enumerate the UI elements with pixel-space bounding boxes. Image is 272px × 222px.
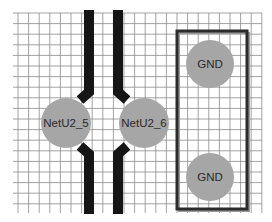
pad-label: GND bbox=[197, 58, 223, 70]
pcb-layout-canvas: NetU2_5NetU2_6GNDGND bbox=[0, 0, 272, 222]
pad-gnd-top[interactable]: GND bbox=[186, 40, 234, 88]
pad-gnd-bottom[interactable]: GND bbox=[186, 153, 234, 201]
pad-label: GND bbox=[197, 171, 223, 183]
pads: NetU2_5NetU2_6GNDGND bbox=[41, 40, 234, 201]
pad-netu2-5[interactable]: NetU2_5 bbox=[41, 98, 91, 148]
pad-label: NetU2_5 bbox=[43, 117, 88, 129]
pad-label: NetU2_6 bbox=[121, 117, 166, 129]
pad-netu2-6[interactable]: NetU2_6 bbox=[119, 98, 169, 148]
